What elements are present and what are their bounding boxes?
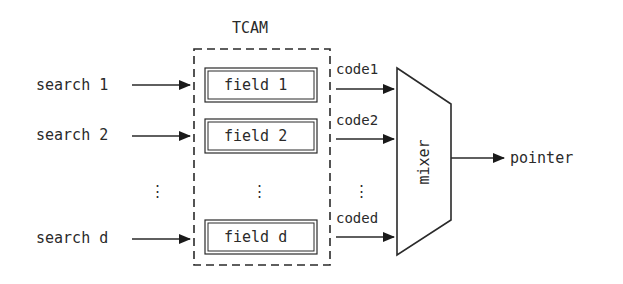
output-label-pointer: pointer <box>510 149 573 167</box>
code-label-2: code2 <box>336 112 378 128</box>
code-label-d: coded <box>336 210 378 226</box>
field-label-1: field 1 <box>224 76 287 94</box>
field-box-1: field 1 <box>205 68 317 102</box>
input-label-search-d: search d <box>36 229 108 247</box>
input-label-search-2: search 2 <box>36 126 108 144</box>
field-box-2: field 2 <box>205 119 317 153</box>
mixer-label: mixer <box>415 139 433 184</box>
tcam-diagram: TCAM search 1 search 2 search d ⋮ ⋮ ⋮ fi… <box>0 0 623 284</box>
field-label-2: field 2 <box>224 127 287 145</box>
tcam-title: TCAM <box>232 19 268 37</box>
field-label-d: field d <box>224 228 287 246</box>
input-label-search-1: search 1 <box>36 76 108 94</box>
input-ellipsis: ⋮ <box>150 182 165 200</box>
field-ellipsis: ⋮ <box>252 182 267 200</box>
code-ellipsis: ⋮ <box>354 182 369 200</box>
field-box-d: field d <box>205 220 317 254</box>
code-label-1: code1 <box>336 61 378 77</box>
